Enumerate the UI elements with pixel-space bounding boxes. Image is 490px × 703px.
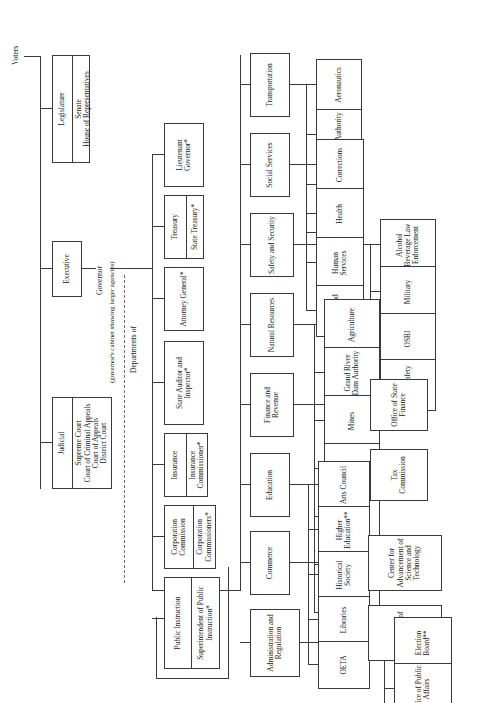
dept-transportation-title: Transportation: [266, 55, 274, 115]
connector-natres-agency-1: [314, 372, 324, 373]
dept-natural-resources-title: Natural Resources: [268, 295, 276, 355]
connector-transportation-stem: [290, 84, 306, 85]
elected-state-auditor-title: State Auditor and Inspector*: [176, 343, 193, 423]
connector-elected-2: [152, 298, 164, 299]
agency-agriculture-title: Agriculture: [348, 301, 356, 349]
elected-treasury-body: State Treasury*: [187, 196, 203, 258]
branch-judicial[interactable]: Judicial Supreme Court Court of Criminal…: [52, 397, 112, 489]
agency-oeta[interactable]: OETA: [318, 641, 370, 689]
connector-education-agency-1: [308, 529, 318, 530]
connector-dept-education: [240, 484, 250, 485]
elected-lieutenant-governor[interactable]: Lieutenant Governor*: [164, 123, 204, 187]
elected-attorney-general[interactable]: Attorney General*: [164, 267, 204, 331]
agency-arts-council-title: Arts Council: [340, 463, 348, 507]
connector-safety-agency-1: [370, 291, 380, 292]
agency-corrections[interactable]: Corrections: [316, 139, 364, 191]
branch-legislature[interactable]: Legislature Senate House of Representati…: [52, 55, 90, 163]
agency-center-advancement-science-technology[interactable]: Center for Advancement of Science and Te…: [368, 535, 442, 591]
connector-dept-commerce: [240, 562, 250, 563]
voters-label: Voters: [12, 46, 21, 65]
judicial-court-district: District Court: [100, 399, 108, 487]
agency-abl-enforcement-title: Alcohol Beverage Law Enforcement: [396, 221, 421, 269]
elected-public-instruction[interactable]: Public Instruction Superintendent of Pub…: [164, 577, 220, 669]
elected-corporation-commission[interactable]: Corporation Commission Corporation Commi…: [164, 505, 216, 569]
dept-safety-security[interactable]: Safety and Security: [250, 213, 294, 277]
agency-military[interactable]: Military: [380, 266, 436, 318]
dept-administration-regulation[interactable]: Administration and Regulation: [250, 609, 300, 677]
dept-commerce[interactable]: Commerce: [250, 531, 290, 595]
connector-elected-1: [152, 226, 164, 227]
cabinet-dashed-divider: [124, 275, 125, 583]
elected-corporation-commission-header: Corporation Commission: [165, 506, 194, 568]
elected-state-auditor[interactable]: State Auditor and Inspector*: [164, 341, 204, 425]
agency-health[interactable]: Health: [316, 188, 364, 240]
bracket-public-instruction-bottom: [228, 567, 229, 679]
branch-executive[interactable]: Executive: [52, 241, 82, 297]
connector-executive-governor: [82, 268, 96, 269]
rotated-chart-wrapper: Voters Legislature Senate House of Repre…: [0, 0, 490, 703]
dept-safety-security-title: Safety and Security: [268, 215, 276, 275]
connector-dept-natural-resources: [240, 324, 250, 325]
connector-governor-down: [110, 268, 152, 269]
agency-higher-education[interactable]: Higher Education**: [318, 506, 370, 554]
branch-judicial-members: Supreme Court Court of Criminal Appeals …: [73, 398, 111, 488]
elected-insurance[interactable]: Insurance Insurance Commissioner*: [164, 433, 208, 497]
agency-office-public-affairs[interactable]: Office of Public Affairs: [394, 663, 452, 703]
agency-osbi[interactable]: OSBI: [380, 313, 436, 365]
connector-transportation-agency-1: [306, 134, 316, 135]
connector-dept-social-services: [240, 164, 250, 165]
connector-legislature: [40, 108, 52, 109]
agency-corrections-title: Corrections: [336, 141, 344, 189]
connector-voters-stem: [24, 56, 40, 57]
connector-elected-4: [152, 464, 164, 465]
bracket-public-instruction-left: [156, 678, 228, 679]
connector-education-bus: [308, 485, 309, 665]
connector-elected-0: [152, 154, 164, 155]
elected-treasury-title: State Treasury*: [191, 197, 199, 257]
dept-finance-revenue[interactable]: Finance and Revenue: [250, 373, 294, 437]
dept-social-services[interactable]: Social Services: [250, 133, 290, 197]
agency-office-public-affairs-title: Office of Public Affairs: [415, 665, 432, 703]
dept-administration-regulation-title: Administration and Regulation: [267, 611, 284, 675]
connector-natres-bus: [314, 325, 315, 613]
connector-departments-bus: [240, 55, 241, 591]
connector-branch-spine: [40, 56, 41, 489]
connector-elected-5: [152, 536, 164, 537]
connector-social-services-bus: [306, 165, 307, 311]
agency-osbi-title: OSBI: [404, 315, 412, 363]
connector-elected-bus: [152, 155, 153, 591]
agency-human-services[interactable]: Human Services: [316, 237, 364, 289]
branch-legislature-title: Legislature: [53, 56, 73, 162]
dept-natural-resources[interactable]: Natural Resources: [250, 293, 294, 357]
agency-oeta-title: OETA: [340, 643, 348, 687]
agency-historical-society[interactable]: Historical Society: [318, 551, 370, 599]
agency-libraries[interactable]: Libraries: [318, 596, 370, 644]
connector-natres-agency-2: [314, 420, 324, 421]
legislature-member-house: House of Representatives: [83, 57, 91, 161]
agency-office-state-finance[interactable]: Office of State Finance: [370, 379, 428, 431]
elected-attorney-general-title: Attorney General*: [180, 269, 188, 329]
agency-election-board-title: Election Board**: [415, 619, 432, 667]
agency-tax-commission[interactable]: Tax Commission: [370, 449, 428, 501]
elected-treasury[interactable]: Treasury State Treasury*: [164, 195, 204, 259]
agency-abl-enforcement[interactable]: Alcohol Beverage Law Enforcement: [380, 219, 436, 271]
connector-education-stem: [290, 484, 308, 485]
bracket-public-instruction-top: [156, 617, 157, 679]
connector-dept-administration: [240, 642, 250, 643]
dept-education[interactable]: Education: [250, 453, 290, 517]
elected-insurance-title: Insurance Commissioner*: [189, 435, 206, 495]
dept-transportation[interactable]: Transportation: [250, 53, 290, 117]
connector-safety-agency-0: [370, 244, 380, 245]
agency-aeronautics[interactable]: Aeronautics: [316, 59, 362, 111]
connector-elected-6: [152, 618, 164, 619]
agency-higher-education-title: Higher Education**: [336, 508, 353, 552]
agency-agriculture[interactable]: Agriculture: [324, 299, 380, 351]
connector-social-agency-1: [306, 213, 316, 214]
agency-aeronautics-title: Aeronautics: [335, 61, 343, 109]
agency-election-board[interactable]: Election Board**: [394, 617, 452, 669]
agency-tax-commission-title: Tax Commission: [391, 451, 408, 499]
branch-executive-title: Executive: [63, 243, 71, 295]
agency-arts-council[interactable]: Arts Council: [318, 461, 370, 509]
agency-mines-title: Mines: [348, 397, 356, 445]
connector-elected-3: [152, 382, 164, 383]
